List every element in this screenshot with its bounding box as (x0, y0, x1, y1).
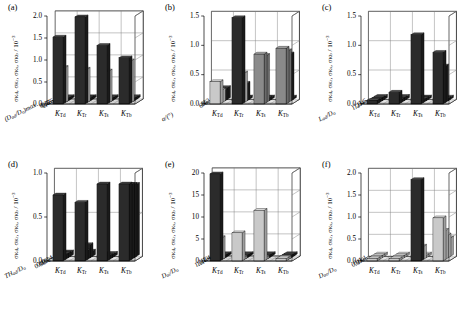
ytick-a-4: 2.0 (22, 12, 42, 20)
bar-b-r0-c0 (210, 80, 223, 104)
y-axis-label-a: σKd, σKr, σKs, σKb / 10−3 (11, 36, 20, 103)
panel-e: (e)05101520σKd, σKr, σKs, σKb / 10−31.01… (157, 157, 314, 314)
bar-e-r0-c1 (232, 231, 245, 261)
panel-c: (c)0.00.51.01.5σKd, σKr, σKs, σKb / 10−3… (314, 0, 471, 157)
panel-f: (f)0.00.51.01.52.0σKd, σKr, σKs, σKb / 1… (314, 157, 471, 314)
xtick-e-K_Td: KTd (212, 267, 223, 275)
y-axis-label-b: σKd, σKr, σKs, σKb / 10−3 (168, 36, 177, 103)
xtick-a-K_Ts: KTs (99, 110, 109, 118)
xtick-f-K_Tr: KTr (391, 267, 401, 275)
ytick-a-1: 0.5 (22, 78, 42, 86)
xtick-f-K_Td: KTd (369, 267, 380, 275)
xtick-d-K_Td: KTd (55, 267, 66, 275)
bar-d-r0-c1 (75, 200, 88, 261)
bar-a-r0-c3 (119, 56, 132, 104)
ytick-f-1: 0.5 (336, 235, 356, 243)
ytick-e-2: 10 (179, 213, 199, 221)
ytick-e-3: 15 (179, 191, 199, 199)
ytick-e-4: 20 (179, 169, 199, 177)
y-axis-label-d: σKd, σKr, σKs, σKb / 10−3 (11, 193, 20, 260)
xtick-b-K_Td: KTd (212, 110, 223, 118)
bar-e-r0-c0 (210, 172, 223, 261)
bar-d-r0-c2 (97, 182, 110, 261)
ytick-a-2: 1.0 (22, 56, 42, 64)
xtick-e-K_Tb: KTb (278, 267, 289, 275)
ytick-d-1: 0.5 (22, 213, 42, 221)
bar-b-r0-c1 (232, 16, 245, 104)
xtick-e-K_Ts: KTs (256, 267, 266, 275)
ytick-f-3: 1.5 (336, 191, 356, 199)
bar-f-r0-c2 (411, 178, 424, 261)
plot-area-b (157, 0, 314, 157)
xtick-c-K_Tr: KTr (391, 110, 401, 118)
bar-f-r0-c3 (433, 216, 446, 261)
bar-b-r0-c2 (254, 52, 267, 104)
ytick-d-2: 1.0 (22, 169, 42, 177)
bar-c-r0-c3 (433, 50, 446, 104)
xtick-b-K_Tb: KTb (278, 110, 289, 118)
panel-a: (a)0.00.51.01.52.0σKd, σKr, σKs, σKb / 1… (0, 0, 157, 157)
xtick-e-K_Tr: KTr (234, 267, 244, 275)
ytick-c-2: 1.0 (336, 41, 356, 49)
ytick-e-1: 5 (179, 235, 199, 243)
plot-area-c (314, 0, 471, 157)
y-axis-label-f: σKd, σKr, σKs, σKb / 10−3 (325, 193, 334, 260)
bar-a-r0-c1 (75, 15, 88, 104)
xtick-a-K_Tb: KTb (121, 110, 132, 118)
y-axis-label-e: σKd, σKr, σKs, σKb / 10−3 (168, 193, 177, 260)
xtick-d-K_Tb: KTb (121, 267, 132, 275)
xtick-c-K_Tb: KTb (435, 110, 446, 118)
ytick-c-3: 1.5 (336, 12, 356, 20)
bar-d-r0-c0 (53, 193, 66, 261)
panel-b: (b)0.00.51.01.5σKd, σKr, σKs, σKb / 10−3… (157, 0, 314, 157)
ytick-b-3: 1.5 (179, 12, 199, 20)
xtick-b-K_Ts: KTs (256, 110, 266, 118)
xtick-d-K_Ts: KTs (99, 267, 109, 275)
ytick-f-4: 2.0 (336, 169, 356, 177)
bar-e-r0-c3 (276, 257, 289, 261)
xtick-b-K_Tr: KTr (234, 110, 244, 118)
bar-e-r0-c2 (254, 209, 267, 262)
bar-d-r0-c3 (119, 182, 132, 261)
xtick-c-K_Td: KTd (369, 110, 380, 118)
xtick-a-K_Td: KTd (55, 110, 66, 118)
bar-b-r0-c3 (276, 46, 289, 104)
bar-c-r0-c0 (367, 99, 380, 104)
xtick-f-K_Tb: KTb (435, 267, 446, 275)
bar-f-r0-c1 (389, 257, 402, 261)
bar-f-r0-c0 (367, 257, 380, 261)
xtick-f-K_Ts: KTs (413, 267, 423, 275)
ytick-c-1: 0.5 (336, 70, 356, 78)
xtick-c-K_Ts: KTs (413, 110, 423, 118)
bar-c-r0-c1 (389, 90, 402, 104)
xtick-d-K_Tr: KTr (77, 267, 87, 275)
bar-c-r0-c2 (411, 33, 424, 104)
ytick-b-1: 0.5 (179, 70, 199, 78)
bar-a-r0-c2 (97, 44, 110, 104)
panel-d: (d)0.00.51.0σKd, σKr, σKs, σKb / 10−30.0… (0, 157, 157, 314)
ytick-a-3: 1.5 (22, 34, 42, 42)
ytick-b-2: 1.0 (179, 41, 199, 49)
figure-six-panel-3d-bar-charts: (a)0.00.51.01.52.0σKd, σKr, σKs, σKb / 1… (0, 0, 471, 314)
y-axis-label-c: σKd, σKr, σKs, σKb / 10−3 (325, 36, 334, 103)
xtick-a-K_Tr: KTr (77, 110, 87, 118)
plot-area-d (0, 157, 157, 314)
ytick-f-2: 1.0 (336, 213, 356, 221)
bar-a-r0-c0 (53, 35, 66, 104)
